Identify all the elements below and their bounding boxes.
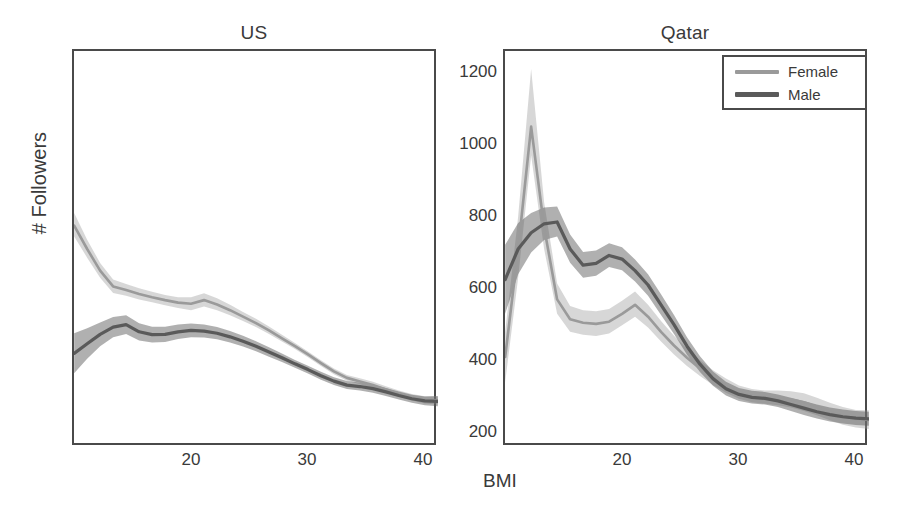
- line-female: [505, 127, 869, 420]
- y-axis-title: # Followers: [28, 68, 51, 298]
- x-tick-qatar-20: 20: [600, 450, 644, 470]
- line-male: [74, 325, 438, 402]
- x-tick-us-30: 30: [285, 450, 329, 470]
- plot-curves-us: [74, 51, 438, 447]
- legend-label-male: Male: [788, 87, 821, 102]
- legend-entry-female[interactable]: Female: [735, 64, 838, 79]
- legend-swatch-female: [735, 70, 779, 74]
- plot-curves-qatar: [505, 51, 869, 447]
- legend-label-female: Female: [788, 64, 838, 79]
- panel-title-qatar: Qatar: [503, 22, 867, 44]
- y-tick-1000: 1000: [441, 134, 497, 154]
- panel-title-us: US: [72, 22, 436, 44]
- legend-entry-male[interactable]: Male: [735, 87, 821, 102]
- x-axis-title: BMI: [440, 470, 560, 492]
- line-male: [505, 222, 869, 419]
- x-tick-us-40: 40: [401, 450, 445, 470]
- y-tick-200: 200: [441, 422, 497, 442]
- ci-band-female: [505, 69, 869, 429]
- x-tick-qatar-30: 30: [716, 450, 760, 470]
- x-tick-us-20: 20: [169, 450, 213, 470]
- y-tick-800: 800: [441, 206, 497, 226]
- figure-canvas: # Followers US 20 30 40 1200 1000 800 60…: [0, 0, 899, 516]
- y-tick-600: 600: [441, 278, 497, 298]
- legend-swatch-male: [735, 92, 779, 97]
- y-tick-1200: 1200: [441, 62, 497, 82]
- line-female: [74, 226, 438, 401]
- legend-box: Female Male: [722, 55, 867, 110]
- ci-band-female: [74, 213, 438, 405]
- x-tick-qatar-40: 40: [832, 450, 876, 470]
- y-tick-400: 400: [441, 350, 497, 370]
- y-axis-title-wrap: # Followers: [28, 68, 58, 298]
